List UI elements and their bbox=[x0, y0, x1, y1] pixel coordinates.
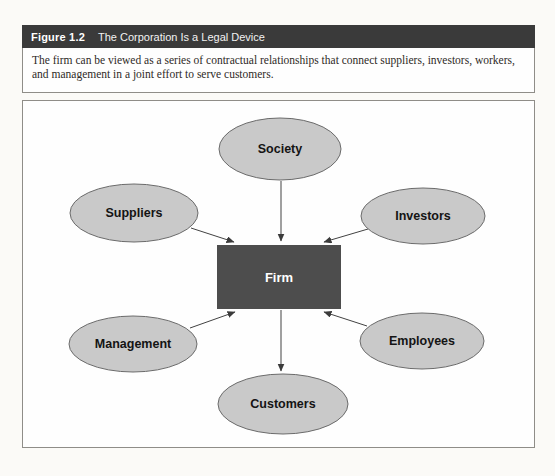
figure-title: The Corporation Is a Legal Device bbox=[98, 31, 265, 43]
figure-block: Figure 1.2 The Corporation Is a Legal De… bbox=[22, 25, 535, 448]
node-investors: Investors bbox=[361, 188, 485, 244]
node-suppliers: Suppliers bbox=[70, 184, 198, 242]
node-investors-label: Investors bbox=[395, 209, 451, 223]
node-firm-label: Firm bbox=[265, 270, 293, 285]
diagram-canvas: Society Suppliers Investors Management E bbox=[23, 101, 534, 447]
figure-number-label: Figure 1.2 bbox=[31, 31, 85, 43]
node-society-label: Society bbox=[258, 142, 303, 156]
edge-investors-firm bbox=[324, 229, 368, 242]
node-customers-label: Customers bbox=[250, 397, 315, 411]
figure-caption-text: The firm can be viewed as a series of co… bbox=[32, 54, 515, 80]
node-suppliers-label: Suppliers bbox=[106, 206, 163, 220]
node-management-label: Management bbox=[95, 337, 172, 351]
node-management: Management bbox=[69, 316, 197, 372]
edge-suppliers-firm bbox=[191, 228, 234, 242]
scanned-figure-page: Figure 1.2 The Corporation Is a Legal De… bbox=[0, 0, 555, 476]
edge-management-firm bbox=[190, 312, 235, 328]
node-society: Society bbox=[219, 118, 341, 180]
edge-employees-firm bbox=[324, 312, 367, 326]
diagram-panel: Society Suppliers Investors Management E bbox=[22, 100, 535, 448]
figure-header-bar: Figure 1.2 The Corporation Is a Legal De… bbox=[22, 25, 535, 48]
node-firm: Firm bbox=[217, 245, 341, 309]
figure-caption-box: The firm can be viewed as a series of co… bbox=[22, 48, 535, 93]
node-employees: Employees bbox=[360, 313, 484, 369]
node-employees-label: Employees bbox=[389, 334, 455, 348]
node-customers: Customers bbox=[218, 374, 348, 434]
